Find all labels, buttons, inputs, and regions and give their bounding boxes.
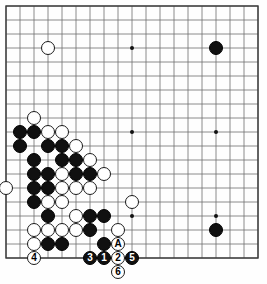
star-point [130,130,134,134]
star-point [130,214,134,218]
go-diagram: A312546 [0,0,267,284]
star-point [214,130,218,134]
point-label-a: A [112,239,124,249]
star-point [130,46,134,50]
star-point [214,214,218,218]
